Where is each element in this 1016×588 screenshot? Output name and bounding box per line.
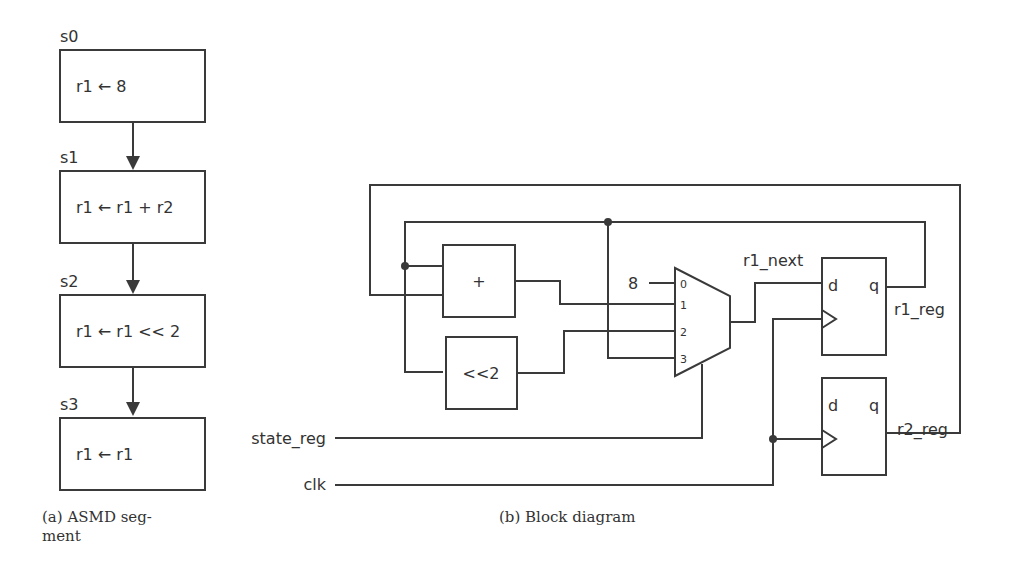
state-label-s3: s3 bbox=[60, 395, 79, 414]
state-label-s2: s2 bbox=[60, 272, 79, 291]
r1-reg-label: r1_reg bbox=[894, 300, 945, 320]
state-reg-label: state_reg bbox=[251, 429, 326, 449]
r1-next-label: r1_next bbox=[743, 251, 803, 271]
r2-reg-d: d bbox=[828, 396, 838, 415]
mux-const-8: 8 bbox=[628, 274, 638, 293]
arrow-icon bbox=[126, 280, 140, 294]
shifter-label: <<2 bbox=[463, 364, 500, 383]
caption-b: (b) Block diagram bbox=[499, 508, 635, 526]
junction-dot bbox=[769, 435, 777, 443]
state-action-s1: r1 ← r1 + r2 bbox=[76, 198, 173, 217]
r1-reg-d: d bbox=[828, 276, 838, 295]
junction-dot bbox=[401, 262, 409, 270]
r2-reg-label: r2_reg bbox=[897, 420, 948, 440]
block-diagram: + <<2 8 0 1 2 3 r1_next d q r1_reg d q r… bbox=[251, 185, 960, 494]
mux-input-0: 0 bbox=[680, 278, 687, 291]
state-action-s0: r1 ← 8 bbox=[76, 77, 127, 96]
state-action-s2: r1 ← r1 << 2 bbox=[76, 322, 180, 341]
diagram-canvas: s0 r1 ← 8 s1 r1 ← r1 + r2 s2 r1 ← r1 << … bbox=[0, 0, 1016, 588]
state-label-s1: s1 bbox=[60, 148, 79, 167]
caption-a-line1: (a) ASMD seg- bbox=[42, 508, 152, 526]
r1-reg-q: q bbox=[869, 276, 879, 295]
state-label-s0: s0 bbox=[60, 27, 79, 46]
arrow-icon bbox=[126, 156, 140, 170]
clk-label: clk bbox=[303, 475, 326, 494]
r1-reg-block bbox=[822, 258, 886, 355]
mux-input-3: 3 bbox=[680, 353, 687, 366]
state-action-s3: r1 ← r1 bbox=[76, 445, 133, 464]
r2-reg-q: q bbox=[869, 396, 879, 415]
r2-reg-block bbox=[822, 378, 886, 475]
mux-input-1: 1 bbox=[680, 299, 687, 312]
arrow-icon bbox=[126, 402, 140, 416]
asmd-chart: s0 r1 ← 8 s1 r1 ← r1 + r2 s2 r1 ← r1 << … bbox=[60, 27, 205, 490]
caption-a-line2: ment bbox=[42, 527, 81, 545]
adder-label: + bbox=[472, 272, 485, 291]
mux-input-2: 2 bbox=[680, 326, 687, 339]
